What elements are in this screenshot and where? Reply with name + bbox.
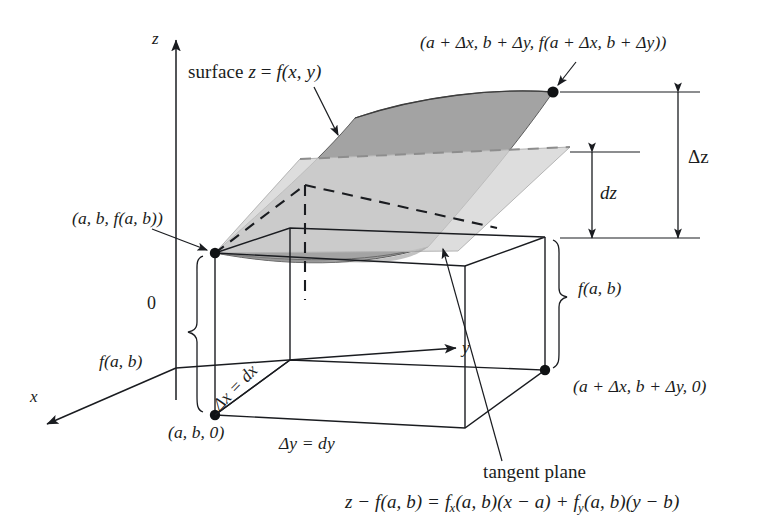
label-tangent-plane-equation: z − f(a, b) = fx(a, b)(x − a) + fy(a, b)… — [345, 492, 679, 515]
label-point-far: (a + Δx, b + Δy, f(a + Δx, b + Δy)) — [420, 34, 666, 52]
label-dz: dz — [600, 183, 617, 202]
surface-label-z: z — [248, 61, 256, 82]
axis-label-y: y — [462, 339, 470, 356]
surface-label: surface z = f(x, y) — [188, 62, 321, 81]
figure-tangent-plane-diagram: z y x 0 surface z = f(x, y) (a + Δx, b +… — [0, 0, 757, 530]
equation-lhs: z − f(a, b) = — [345, 491, 445, 512]
label-point-base-far: (a + Δx, b + Δy, 0) — [573, 378, 707, 396]
brace-height-left — [188, 256, 203, 412]
diagram-canvas — [0, 0, 757, 530]
dot-point-far — [547, 86, 558, 97]
label-height-right: f(a, b) — [578, 280, 621, 298]
leader-surface-label — [314, 87, 338, 135]
label-tangent-plane: tangent plane — [483, 462, 586, 481]
measurement-rules — [560, 92, 700, 238]
equation-term2-rest: (a, b)(y − b) — [584, 491, 679, 512]
dot-point-near — [210, 248, 220, 258]
equation-term2-subscript: y — [578, 501, 584, 515]
brace-height-right — [553, 240, 567, 368]
leader-point-far-label — [558, 62, 576, 85]
label-delta-y: Δy = dy — [279, 435, 335, 453]
surface-label-prefix: surface — [188, 61, 248, 82]
leader-point-near-label — [152, 229, 207, 250]
equation-term1-rest: (a, b)(x − a) + — [455, 491, 573, 512]
label-point-base-near: (a, b, 0) — [168, 424, 224, 442]
tangent-plane-surface — [215, 147, 570, 253]
surface-label-args: (x, y) — [282, 61, 322, 82]
axis-label-x: x — [30, 388, 38, 405]
axis-label-z: z — [152, 30, 159, 47]
dot-base-far — [540, 365, 550, 375]
leader-tangent-plane-label — [443, 249, 502, 461]
label-point-near: (a, b, f(a, b)) — [72, 210, 163, 228]
origin-label: 0 — [147, 294, 156, 312]
axis-x — [47, 368, 176, 424]
label-delta-z: Δz — [688, 147, 709, 166]
label-delta-z-text: Δz — [688, 146, 709, 167]
label-height-left: f(a, b) — [99, 353, 142, 371]
surface-label-equals: = — [256, 61, 277, 82]
